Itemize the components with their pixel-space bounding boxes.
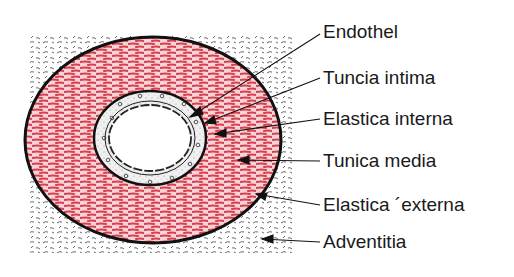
label-elastica-interna: Elastica interna xyxy=(323,108,453,130)
artery-cross-section-diagram xyxy=(0,0,514,277)
label-tunica-intima: Tuncia intima xyxy=(323,67,435,89)
label-adventitia: Adventitia xyxy=(323,231,406,253)
label-endothel: Endothel xyxy=(323,21,398,43)
label-tunica-media: Tunica media xyxy=(323,150,436,172)
label-elastica-externa: Elastica ´externa xyxy=(323,194,465,216)
lumen xyxy=(105,101,195,175)
